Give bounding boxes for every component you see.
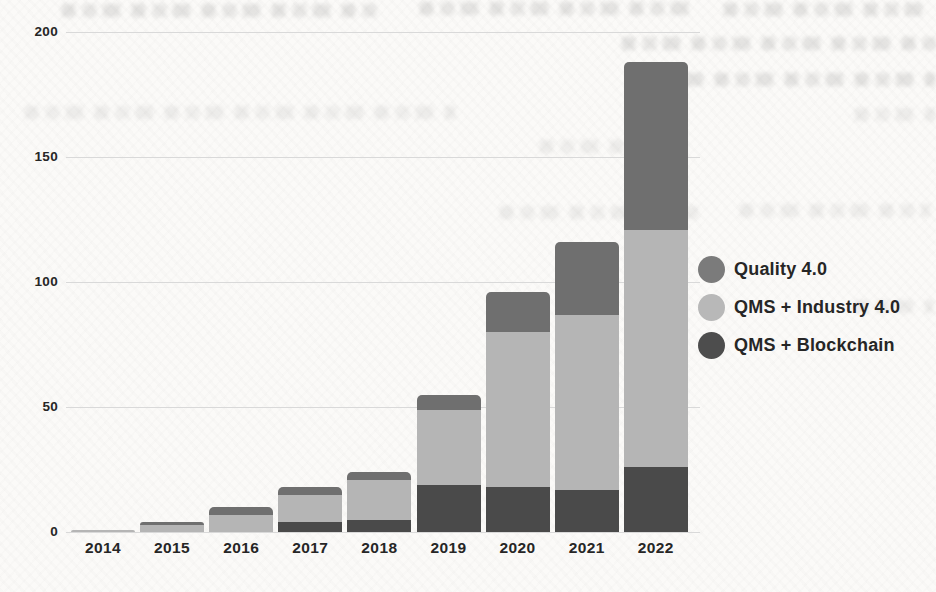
bar-segment-2019-quality-4-0 xyxy=(417,395,481,410)
bar-segment-2015-qms-industry-4-0 xyxy=(140,525,204,533)
x-axis-tick-label-2019: 2019 xyxy=(414,539,484,557)
bar-segment-2018-quality-4-0 xyxy=(347,472,411,480)
x-axis-tick-label-2022: 2022 xyxy=(621,539,691,557)
legend-label: Quality 4.0 xyxy=(734,259,827,280)
y-axis-tick-label: 100 xyxy=(0,274,58,290)
legend-swatch-circle-icon xyxy=(698,256,725,283)
bar-2016 xyxy=(209,507,273,532)
bar-2021 xyxy=(555,242,619,532)
bar-segment-2022-qms-industry-4-0 xyxy=(624,230,688,468)
ghost-text-artifact xyxy=(740,204,930,217)
gridline-y-0 xyxy=(66,532,700,533)
ghost-text-artifact xyxy=(645,73,935,86)
legend-item-qms-blockchain: QMS + Blockchain xyxy=(698,332,900,359)
legend-label: QMS + Blockchain xyxy=(734,335,895,356)
chart-legend: Quality 4.0QMS + Industry 4.0QMS + Block… xyxy=(698,256,900,359)
legend-item-qms-industry-4-0: QMS + Industry 4.0 xyxy=(698,294,900,321)
bar-segment-2017-qms-industry-4-0 xyxy=(278,495,342,523)
scanned-page: 0501001502002014201520162017201820192020… xyxy=(0,0,936,592)
y-axis-tick-label: 200 xyxy=(0,24,58,40)
ghost-text-artifact xyxy=(25,106,455,119)
bar-segment-2019-qms-industry-4-0 xyxy=(417,410,481,485)
bar-segment-2021-quality-4-0 xyxy=(555,242,619,315)
bar-segment-2018-qms-blockchain xyxy=(347,520,411,533)
ghost-text-artifact xyxy=(62,4,382,17)
x-axis-tick-label-2017: 2017 xyxy=(275,539,345,557)
ghost-text-artifact xyxy=(420,2,700,15)
legend-item-quality-4-0: Quality 4.0 xyxy=(698,256,900,283)
gridline-y-150 xyxy=(66,157,700,158)
bar-segment-2020-qms-blockchain xyxy=(486,487,550,532)
ghost-text-artifact xyxy=(622,37,936,50)
bar-segment-2019-qms-blockchain xyxy=(417,485,481,533)
bar-2015 xyxy=(140,522,204,532)
legend-label: QMS + Industry 4.0 xyxy=(734,297,900,318)
bar-segment-2020-quality-4-0 xyxy=(486,292,550,332)
x-axis-tick-label-2014: 2014 xyxy=(68,539,138,557)
bar-segment-2014-qms-industry-4-0 xyxy=(71,530,135,533)
x-axis-tick-label-2021: 2021 xyxy=(552,539,622,557)
x-axis-tick-label-2015: 2015 xyxy=(137,539,207,557)
bar-2017 xyxy=(278,487,342,532)
gridline-y-200 xyxy=(66,32,700,33)
ghost-text-artifact xyxy=(540,140,636,153)
bar-segment-2017-qms-blockchain xyxy=(278,522,342,532)
bar-segment-2022-quality-4-0 xyxy=(624,62,688,230)
bar-2019 xyxy=(417,395,481,533)
bar-segment-2018-qms-industry-4-0 xyxy=(347,480,411,520)
bar-segment-2016-quality-4-0 xyxy=(209,507,273,515)
y-axis-tick-label: 150 xyxy=(0,149,58,165)
legend-swatch-circle-icon xyxy=(698,294,725,321)
bar-segment-2022-qms-blockchain xyxy=(624,467,688,532)
bar-segment-2017-quality-4-0 xyxy=(278,487,342,495)
x-axis-tick-label-2016: 2016 xyxy=(206,539,276,557)
x-axis-tick-label-2020: 2020 xyxy=(483,539,553,557)
x-axis-tick-label-2018: 2018 xyxy=(344,539,414,557)
bar-2020 xyxy=(486,292,550,532)
bar-2022 xyxy=(624,62,688,532)
y-axis-tick-label: 50 xyxy=(0,399,58,415)
bar-segment-2016-qms-industry-4-0 xyxy=(209,515,273,533)
legend-swatch-circle-icon xyxy=(698,332,725,359)
ghost-text-artifact xyxy=(724,3,934,16)
bar-2018 xyxy=(347,472,411,532)
bar-segment-2021-qms-blockchain xyxy=(555,490,619,533)
bar-segment-2021-qms-industry-4-0 xyxy=(555,315,619,490)
bar-2014 xyxy=(71,530,135,533)
y-axis-tick-label: 0 xyxy=(0,524,58,540)
ghost-text-artifact xyxy=(855,108,935,121)
bar-segment-2020-qms-industry-4-0 xyxy=(486,332,550,487)
